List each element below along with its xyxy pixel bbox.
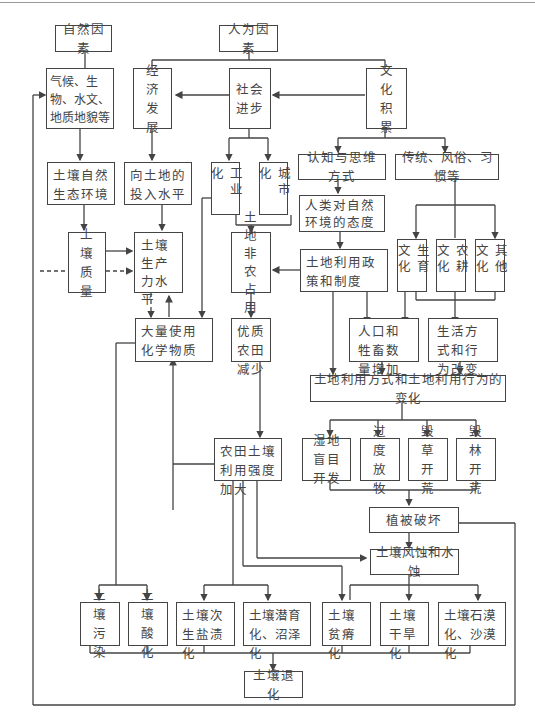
node-land-use-change: 土地利用方式和土地利用行为的变化: [310, 375, 506, 402]
node-soil-natural-env: 土壤自然生态环境: [47, 162, 115, 205]
node-soil-quality: 土壤质量: [68, 232, 106, 293]
node-lifestyle-change: 生活方式和行为改变: [428, 318, 498, 362]
node-cultural-accumulation: 文化积累: [366, 68, 407, 129]
node-soil-salinization: 土壤次生盐渍化: [176, 602, 235, 646]
node-industrialization: 工业化: [211, 162, 240, 215]
node-grass-destruction: 毁草开荒: [408, 438, 448, 481]
node-attitude: 人类对自然环境的态度: [299, 195, 385, 232]
node-natural-elements: 气候、生物、水文、地质地貌等: [46, 68, 114, 129]
node-vegetation-damage: 植被破坏: [369, 507, 459, 533]
node-overgrazing: 过度放牧: [360, 438, 400, 481]
node-farmland-decrease: 优质农田减少: [231, 318, 271, 362]
node-human-factors: 人为因素: [219, 25, 278, 52]
node-wetland-development: 湿地盲目开发: [302, 438, 351, 481]
node-natural-factors: 自然因素: [55, 25, 112, 52]
node-soil-gleization: 土壤潜育化、沼泽化: [243, 602, 311, 646]
node-soil-impoverishment: 土壤贫瘠化: [322, 602, 371, 646]
node-farming-culture: 农耕文化: [436, 239, 466, 292]
node-farmland-intensity: 农田土壤利用强度加大: [214, 438, 282, 481]
node-population-increase: 人口和牲畜数量增加: [349, 318, 419, 362]
node-economic-development: 经济发展: [133, 68, 172, 129]
node-urbanization: 城市化: [259, 162, 288, 215]
node-traditions: 传统、风俗、习惯等: [395, 154, 499, 180]
node-chemicals: 大量使用化学物质: [135, 318, 213, 362]
node-soil-productivity: 土壤生产力水平: [134, 232, 183, 293]
node-land-nonagri: 土地非农占用: [231, 232, 271, 293]
node-social-progress: 社会进步: [229, 68, 271, 129]
node-land-policy: 土地利用政策和制度: [300, 249, 388, 292]
node-soil-acidification: 土壤酸化: [128, 602, 168, 646]
node-other-culture: 其他文化: [475, 239, 505, 292]
node-soil-drought: 土壤干旱化: [380, 602, 429, 646]
node-land-input: 向土地的投入水平: [124, 162, 192, 205]
node-forest-destruction: 毁林开荒: [456, 438, 496, 481]
node-soil-pollution: 土壤污染: [80, 602, 120, 646]
node-fertility-culture: 生育文化: [397, 239, 427, 292]
node-cognition: 认知与思维方式: [298, 154, 386, 180]
node-soil-degradation: 土壤退化: [244, 671, 303, 698]
node-soil-desertification: 土壤石漠化、沙漠化: [438, 602, 506, 646]
node-erosion: 土壤风蚀和水蚀: [370, 549, 459, 575]
